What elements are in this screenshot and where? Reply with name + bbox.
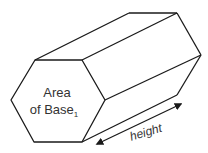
base-label-text: of Base (30, 102, 74, 117)
height-label: height (128, 121, 164, 144)
base-label-line2: of Base1 (30, 102, 79, 119)
base-label-line1: Area (43, 85, 71, 100)
hexagon-base (11, 60, 105, 142)
hexagonal-prism-diagram: Area of Base1 height (0, 0, 208, 153)
prism-side-edges (35, 13, 201, 142)
base-label-subscript: 1 (74, 110, 79, 119)
